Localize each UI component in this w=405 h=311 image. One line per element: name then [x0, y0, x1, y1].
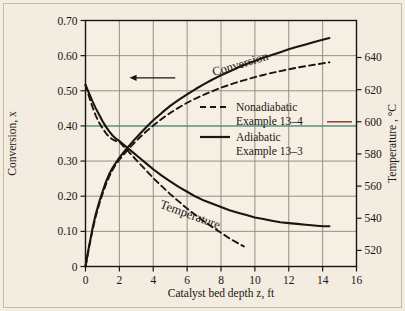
legend-label-primary: Adiabatic	[236, 131, 281, 143]
x-tick-label: 16	[351, 274, 363, 286]
legend-label-secondary: Example 13–3	[236, 145, 303, 158]
x-tick-label: 8	[218, 274, 224, 286]
x-tick-label: 4	[150, 274, 156, 286]
y-axis-title: Conversion, x	[6, 111, 19, 176]
chart-canvas: 024681012141600.100.200.300.400.500.600.…	[0, 0, 405, 311]
legend-label-primary: Nonadiabatic	[236, 101, 297, 113]
y2-tick-label: 640	[365, 51, 383, 63]
y-tick-label: 0.30	[57, 155, 77, 167]
y-tick-label: 0.20	[57, 190, 77, 202]
y-tick-label: 0.70	[57, 15, 77, 27]
y-tick-label: 0.10	[57, 225, 77, 237]
x-tick-label: 14	[317, 274, 329, 286]
x-tick-label: 6	[184, 274, 190, 286]
x-axis-title: Catalyst bed depth z, ft	[168, 287, 275, 300]
y2-axis-title: Temperature , °C	[386, 104, 399, 183]
y2-tick-label: 620	[365, 84, 383, 96]
y2-tick-label: 560	[365, 180, 383, 192]
y-tick-label: 0.40	[57, 120, 77, 132]
x-tick-label: 2	[117, 274, 123, 286]
x-tick-label: 12	[283, 274, 295, 286]
figure-container: 024681012141600.100.200.300.400.500.600.…	[0, 0, 405, 311]
y2-tick-label: 600	[365, 116, 383, 128]
y-tick-label: 0	[72, 261, 78, 273]
y-tick-label: 0.50	[57, 85, 77, 97]
x-tick-label: 0	[83, 274, 89, 286]
y2-tick-label: 540	[365, 212, 383, 224]
y2-tick-label: 580	[365, 148, 383, 160]
legend-label-secondary: Example 13–4	[236, 115, 303, 128]
y2-tick-label: 520	[365, 244, 383, 256]
x-tick-label: 10	[249, 274, 261, 286]
y-tick-label: 0.60	[57, 50, 77, 62]
